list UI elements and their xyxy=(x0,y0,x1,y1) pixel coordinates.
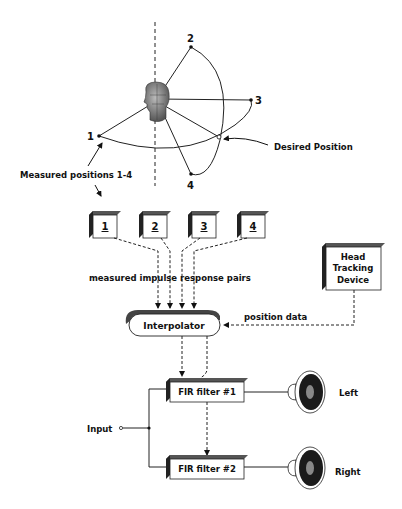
measured-points xyxy=(97,45,253,176)
desired-position-arrow xyxy=(224,138,268,145)
input-junction xyxy=(147,426,150,429)
fir-filter-1: FIR filter #1 xyxy=(166,378,248,402)
left-speaker-label: Left xyxy=(339,388,358,398)
impulse-box-4: 4 xyxy=(237,211,269,238)
point-label-2: 2 xyxy=(187,33,194,44)
point-label-3: 3 xyxy=(255,95,262,106)
vertical-arc xyxy=(191,47,224,175)
desired-position-label: Desired Position xyxy=(274,142,353,152)
fir-filter-2: FIR filter #2 xyxy=(166,455,248,479)
measured-arrow-down xyxy=(95,185,101,196)
svg-text:FIR filter #1: FIR filter #1 xyxy=(178,387,236,397)
rays xyxy=(99,47,251,174)
head-tracking-line2: Tracking xyxy=(333,263,374,273)
head-icon xyxy=(144,82,169,122)
right-speaker-icon xyxy=(288,447,325,489)
svg-text:Interpolator: Interpolator xyxy=(143,321,205,331)
svg-text:4: 4 xyxy=(250,221,257,232)
input-label: Input xyxy=(87,424,112,434)
hrtf-diagram: 1 2 3 4 Desired Position Measured positi… xyxy=(0,0,402,509)
left-speaker-icon xyxy=(288,371,325,413)
head-tracking-line3: Device xyxy=(337,275,369,285)
head-tracking-line1: Head xyxy=(341,252,366,262)
svg-text:2: 2 xyxy=(152,221,159,232)
point-label-1: 1 xyxy=(87,131,94,142)
impulse-box-1: 1 xyxy=(89,211,121,238)
right-speaker-label: Right xyxy=(335,467,361,477)
input-wiring xyxy=(123,389,166,467)
interpolator-box: Interpolator xyxy=(126,310,220,336)
position-data-label: position data xyxy=(244,312,308,322)
head-tracking-device-box: Head Tracking Device xyxy=(322,243,385,290)
point-label-4: 4 xyxy=(187,180,194,191)
measured-arrow-up xyxy=(88,143,102,166)
desired-position-marker xyxy=(217,135,221,139)
interp-to-filter1-b xyxy=(200,336,207,378)
measured-positions-label: Measured positions 1-4 xyxy=(20,170,132,180)
svg-text:FIR filter #2: FIR filter #2 xyxy=(178,464,236,474)
input-terminal xyxy=(119,426,122,429)
svg-text:1: 1 xyxy=(102,221,109,232)
impulse-response-label: measured impulse response pairs xyxy=(89,273,251,283)
svg-text:3: 3 xyxy=(201,221,208,232)
impulse-box-2: 2 xyxy=(139,211,171,238)
impulse-box-3: 3 xyxy=(188,211,220,238)
